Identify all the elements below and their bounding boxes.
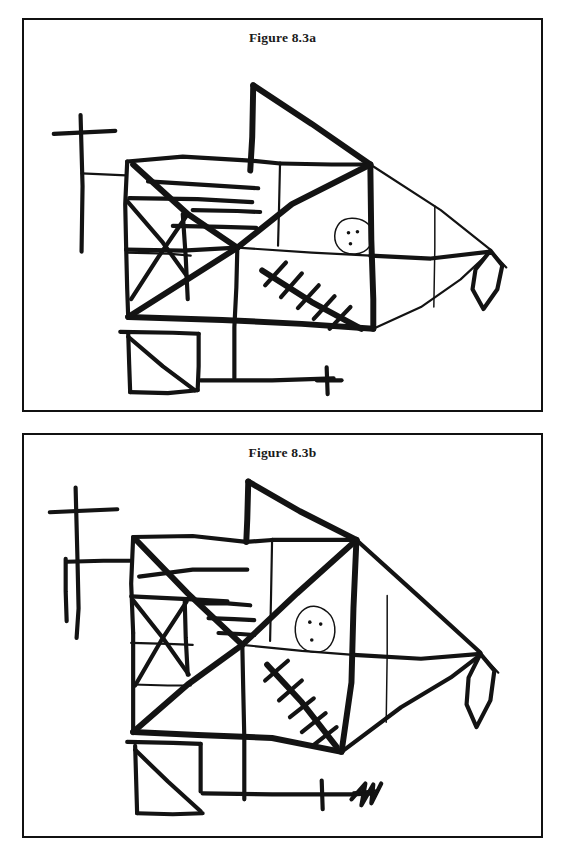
right-body-wedge-b <box>342 540 481 752</box>
drawing-figure-8-3b <box>24 435 541 836</box>
mid-horizontal-line-a <box>126 248 490 259</box>
upper-sail-triangle-b <box>246 482 356 542</box>
eye-oval-with-three-dots-b <box>295 606 335 652</box>
right-vertical-hairline-a <box>434 206 435 307</box>
crosshatched-diagonal-with-ticks-a <box>262 263 361 329</box>
eye-oval-with-three-dots-a <box>335 218 373 254</box>
right-body-wedge-a <box>370 165 490 329</box>
vertical-divider-line-a <box>234 164 280 379</box>
crosshatched-diagonal-with-ticks-b <box>265 661 336 747</box>
upper-sail-triangle-a <box>250 85 370 170</box>
tail-diamond-b <box>467 654 499 727</box>
left-X-cross-hatch-b <box>131 600 193 685</box>
bottom-horizontal-line-with-cross-a <box>201 367 342 394</box>
bottom-scribble-mark-b <box>351 784 381 806</box>
drawing-area-a <box>24 20 541 410</box>
bottom-horizontal-line-with-tick-b <box>203 781 374 810</box>
document-page: Figure 8.3a <box>0 0 565 854</box>
horizontal-ladder-rungs-b <box>131 570 254 635</box>
left-cross-with-connector-b <box>50 487 130 637</box>
tail-diamond-a <box>473 251 507 309</box>
vertical-divider-line-b <box>242 540 272 799</box>
left-cross-with-stem-a <box>54 115 126 252</box>
figure-panel-a: Figure 8.3a <box>22 18 543 412</box>
bottom-left-square-with-diagonal-b <box>127 742 202 814</box>
figure-panel-b: Figure 8.3b <box>22 433 543 838</box>
mid-horizontal-line-b <box>242 645 480 659</box>
drawing-figure-8-3a <box>24 20 541 410</box>
bottom-left-square-with-diagonal-a <box>120 332 198 393</box>
drawing-area-b <box>24 435 541 836</box>
